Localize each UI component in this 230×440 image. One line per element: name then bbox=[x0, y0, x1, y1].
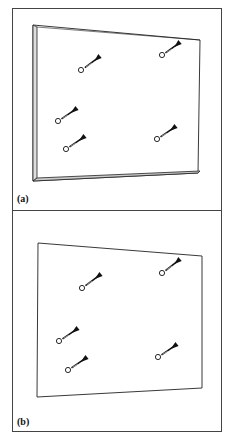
hole-marker bbox=[159, 270, 164, 275]
hole-marker bbox=[79, 285, 84, 290]
figure-drawing bbox=[0, 0, 230, 440]
hole-marker bbox=[155, 354, 160, 359]
hole-marker bbox=[78, 67, 83, 72]
hole-marker bbox=[56, 338, 61, 343]
hole-marker bbox=[159, 52, 164, 57]
board-a bbox=[33, 25, 200, 181]
hole-marker bbox=[55, 118, 60, 123]
hole-marker bbox=[154, 136, 159, 141]
board-b bbox=[37, 243, 202, 397]
hole-marker bbox=[65, 367, 70, 372]
hole-marker bbox=[63, 146, 68, 151]
